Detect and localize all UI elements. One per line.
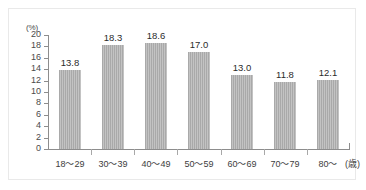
y-axis-tick-label: 14 <box>31 63 41 74</box>
x-axis-separator <box>177 149 178 155</box>
y-axis-tick-label: 2 <box>36 132 41 143</box>
bar-value-label: 17.0 <box>177 39 221 50</box>
bar[interactable] <box>231 75 253 149</box>
bar-value-label: 13.8 <box>48 57 92 68</box>
y-axis-tick-mark <box>44 35 48 36</box>
y-axis-tick-mark <box>44 126 48 127</box>
x-axis-separator <box>264 149 265 155</box>
bar[interactable] <box>145 43 167 149</box>
bar-slot <box>59 35 81 149</box>
y-axis-tick-mark <box>44 81 48 82</box>
y-axis-tick-mark <box>44 103 48 104</box>
bar[interactable] <box>59 70 81 149</box>
x-axis-unit-label: (歳) <box>345 157 360 170</box>
y-axis-tick-mark <box>44 69 48 70</box>
x-axis-separator <box>134 149 135 155</box>
y-axis-tick-label: 18 <box>31 40 41 51</box>
y-axis-tick-label: 20 <box>31 29 41 40</box>
y-axis-tick-mark <box>44 92 48 93</box>
bar-slot <box>231 35 253 149</box>
bar-value-label: 18.6 <box>134 30 178 41</box>
bar-slot <box>274 35 296 149</box>
bar[interactable] <box>188 52 210 149</box>
y-axis-tick-label: 16 <box>31 52 41 63</box>
bar[interactable] <box>102 45 124 149</box>
y-axis-tick-label: 12 <box>31 75 41 86</box>
y-axis-tick-label: 0 <box>36 143 41 154</box>
x-axis-line <box>48 149 350 150</box>
y-axis-tick-mark <box>44 138 48 139</box>
bar-slot <box>317 35 339 149</box>
y-axis-tick-label: 10 <box>31 86 41 97</box>
y-axis-tick-label: 6 <box>36 109 41 120</box>
y-axis-tick-label: 8 <box>36 97 41 108</box>
y-axis-tick-label: 4 <box>36 120 41 131</box>
bar[interactable] <box>317 80 339 149</box>
chart-frame: (%) 20181614121086420 13.818.318.617.013… <box>8 8 356 180</box>
bar-slot <box>188 35 210 149</box>
x-axis-separator <box>221 149 222 155</box>
x-axis-separator <box>91 149 92 155</box>
x-axis-end-tick <box>349 143 350 150</box>
bar-value-label: 13.0 <box>220 62 264 73</box>
y-axis-tick-mark <box>44 149 48 150</box>
bar-slot <box>102 35 124 149</box>
y-axis-tick-mark <box>44 46 48 47</box>
y-axis-line <box>48 35 49 150</box>
bar-chart-figure: (%) 20181614121086420 13.818.318.617.013… <box>0 0 366 190</box>
bar-slot <box>145 35 167 149</box>
bar-value-label: 12.1 <box>306 67 350 78</box>
x-axis-separator <box>307 149 308 155</box>
bar-value-label: 18.3 <box>91 32 135 43</box>
bar-value-label: 11.8 <box>263 69 307 80</box>
bar[interactable] <box>274 82 296 149</box>
y-axis-tick-mark <box>44 115 48 116</box>
